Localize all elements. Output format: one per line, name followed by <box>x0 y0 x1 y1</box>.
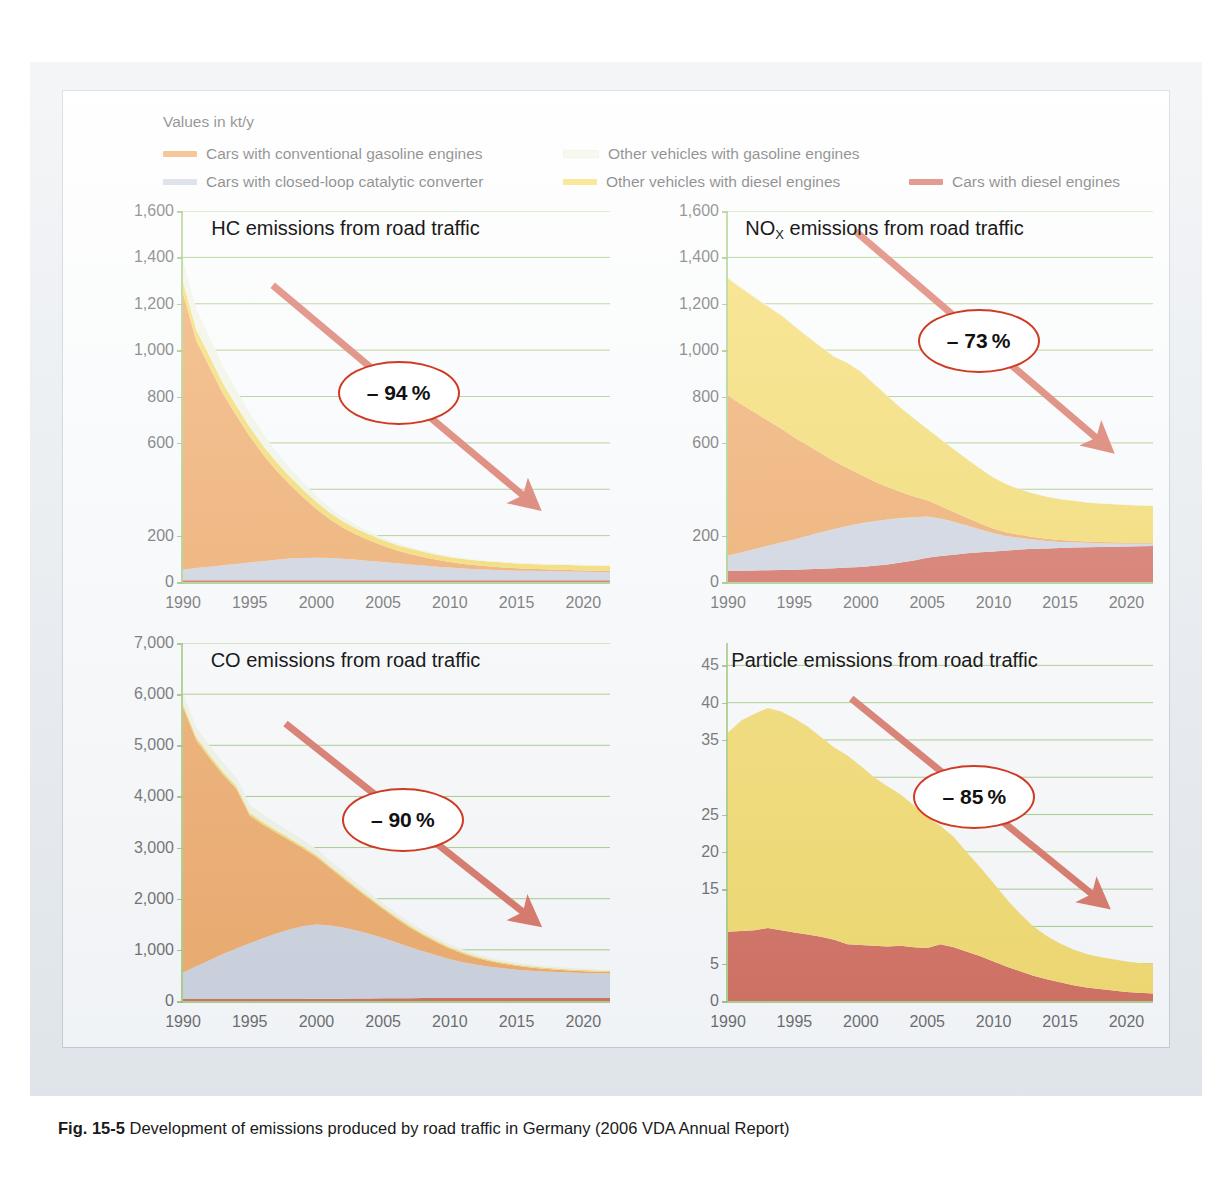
x-axis-tick: 1990 <box>165 594 201 612</box>
legend-item-diesel-cars: Cars with diesel engines <box>909 173 1120 191</box>
legend-units-label: Values in kt/y <box>163 113 1153 131</box>
x-axis-tick: 2005 <box>909 594 945 612</box>
plot-wrap-nox: 02006008001,0001,2001,4001,6001990199520… <box>726 211 1153 584</box>
reduction-callout: – 90 % <box>342 788 464 852</box>
x-axis-tick: 2010 <box>432 1013 468 1031</box>
chart-hc: HC emissions from road traffic 020060080… <box>73 203 618 628</box>
y-axis-tick: 800 <box>692 388 719 406</box>
y-axis-tick: 0 <box>710 573 719 591</box>
reduction-callout: – 85 % <box>913 765 1035 829</box>
y-axis-tick: 200 <box>692 527 719 545</box>
y-axis-tick: 600 <box>147 434 174 452</box>
y-axis-tick: 1,600 <box>679 202 719 220</box>
y-axis-tick: 1,400 <box>134 248 174 266</box>
y-axis-tick: 20 <box>701 843 719 861</box>
x-axis-tick: 2010 <box>976 1013 1012 1031</box>
area-series <box>183 580 610 582</box>
y-axis-tick: 1,000 <box>679 341 719 359</box>
chart-svg-nox <box>728 211 1153 582</box>
y-axis-tick: 0 <box>710 992 719 1010</box>
x-axis-tick: 2020 <box>566 594 602 612</box>
y-axis-tick: 1,000 <box>134 341 174 359</box>
legend-row-1: Cars with conventional gasoline engines … <box>163 145 1153 163</box>
x-axis-tick: 2005 <box>909 1013 945 1031</box>
legend-label-gasoline-other: Other vehicles with gasoline engines <box>608 145 860 163</box>
y-axis-tick: 0 <box>165 992 174 1010</box>
plot-wrap-hc: 02006008001,0001,2001,4001,6001990199520… <box>181 211 610 584</box>
x-axis-tick: 2005 <box>365 1013 401 1031</box>
legend-label-diesel-other: Other vehicles with diesel engines <box>606 173 840 191</box>
y-axis-tick: 45 <box>701 656 719 674</box>
chart-co: CO emissions from road traffic 01,0002,0… <box>73 635 618 1047</box>
x-axis-tick: 2020 <box>566 1013 602 1031</box>
x-axis-tick: 1995 <box>777 1013 813 1031</box>
y-axis-tick: 2,000 <box>134 890 174 908</box>
figure-caption: Fig. 15-5 Development of emissions produ… <box>58 1119 1178 1138</box>
legend-item-gasoline-other: Other vehicles with gasoline engines <box>563 145 860 163</box>
x-axis-tick: 2015 <box>1042 1013 1078 1031</box>
y-axis-tick: 800 <box>147 388 174 406</box>
legend-swatch-gasoline-cars <box>163 151 197 157</box>
legend-label-gasoline-cars: Cars with conventional gasoline engines <box>206 145 483 163</box>
y-axis-tick: 35 <box>701 731 719 749</box>
x-axis-tick: 1995 <box>232 594 268 612</box>
x-axis-tick: 2000 <box>843 594 879 612</box>
legend-label-catalytic-cars: Cars with closed-loop catalytic converte… <box>206 173 483 191</box>
plot-area-co: 01,0002,0003,0004,0005,0006,0007,0001990… <box>181 643 610 1003</box>
figure-caption-text: Development of emissions produced by roa… <box>130 1119 790 1137</box>
x-axis-tick: 1990 <box>710 1013 746 1031</box>
y-axis-tick: 0 <box>165 573 174 591</box>
x-axis-tick: 2020 <box>1109 594 1145 612</box>
chart-particles: Particle emissions from road traffic 051… <box>608 635 1161 1047</box>
x-axis-tick: 2015 <box>499 594 535 612</box>
figure-page: Values in kt/y Cars with conventional ga… <box>0 0 1232 1194</box>
y-axis-tick: 1,200 <box>134 295 174 313</box>
x-axis-tick: 2005 <box>365 594 401 612</box>
legend-item-gasoline-cars: Cars with conventional gasoline engines <box>163 145 563 163</box>
charts-grid: HC emissions from road traffic 020060080… <box>63 203 1171 1049</box>
y-axis-tick: 1,000 <box>134 941 174 959</box>
x-axis-tick: 2020 <box>1109 1013 1145 1031</box>
x-axis-tick: 2000 <box>299 1013 335 1031</box>
y-axis-tick: 15 <box>701 880 719 898</box>
y-axis-tick: 4,000 <box>134 787 174 805</box>
y-axis-tick: 7,000 <box>134 634 174 652</box>
legend-item-diesel-other: Other vehicles with diesel engines <box>563 173 909 191</box>
reduction-callout: – 94 % <box>338 361 460 425</box>
legend-row-2: Cars with closed-loop catalytic converte… <box>163 173 1153 191</box>
legend-label-diesel-cars: Cars with diesel engines <box>952 173 1120 191</box>
x-axis-tick: 2000 <box>299 594 335 612</box>
legend-rows: Cars with conventional gasoline engines … <box>163 145 1153 191</box>
figure-frame: Values in kt/y Cars with conventional ga… <box>30 62 1202 1096</box>
y-axis-tick: 5,000 <box>134 736 174 754</box>
y-axis-tick: 40 <box>701 694 719 712</box>
x-axis-tick: 2000 <box>843 1013 879 1031</box>
figure-content: Values in kt/y Cars with conventional ga… <box>62 90 1170 1048</box>
legend-swatch-diesel-cars <box>909 179 943 185</box>
area-series <box>183 294 610 572</box>
y-axis-tick: 1,200 <box>679 295 719 313</box>
legend-swatch-catalytic-cars <box>163 179 197 185</box>
legend: Values in kt/y Cars with conventional ga… <box>163 113 1153 191</box>
y-axis-tick: 200 <box>147 527 174 545</box>
y-axis-tick: 6,000 <box>134 685 174 703</box>
x-axis-tick: 1995 <box>777 594 813 612</box>
legend-item-catalytic-cars: Cars with closed-loop catalytic converte… <box>163 173 563 191</box>
legend-swatch-gasoline-other <box>563 150 599 158</box>
x-axis-tick: 1990 <box>710 594 746 612</box>
y-axis-tick: 1,400 <box>679 248 719 266</box>
y-axis-tick: 1,600 <box>134 202 174 220</box>
y-axis-tick: 600 <box>692 434 719 452</box>
plot-area-particles: 0515202535404519901995200020052010201520… <box>726 643 1153 1003</box>
figure-number: Fig. 15-5 <box>58 1119 125 1137</box>
legend-swatch-diesel-other <box>563 179 597 185</box>
x-axis-tick: 2010 <box>432 594 468 612</box>
plot-area-hc: 02006008001,0001,2001,4001,6001990199520… <box>181 211 610 584</box>
plot-wrap-co: 01,0002,0003,0004,0005,0006,0007,0001990… <box>181 643 610 1003</box>
x-axis-tick: 2015 <box>499 1013 535 1031</box>
plot-area-nox: 02006008001,0001,2001,4001,6001990199520… <box>726 211 1153 584</box>
plot-wrap-particles: 0515202535404519901995200020052010201520… <box>726 643 1153 1003</box>
reduction-callout: – 73 % <box>918 309 1040 373</box>
chart-nox: NOX emissions from road traffic 02006008… <box>608 203 1161 628</box>
x-axis-tick: 2015 <box>1042 594 1078 612</box>
